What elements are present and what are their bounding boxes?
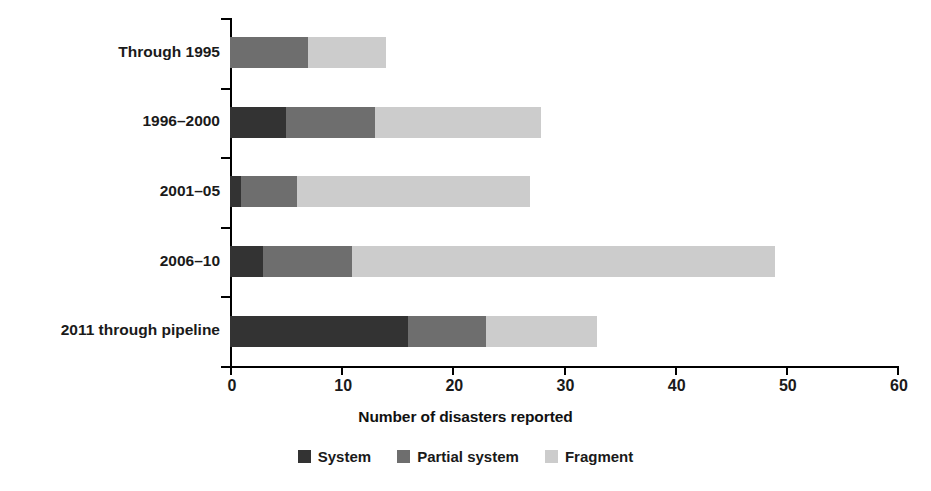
y-axis-tick — [221, 366, 230, 368]
chart-category-row: Through 1995 — [230, 18, 897, 88]
chart-category-row: 2011 through pipeline — [230, 296, 897, 366]
legend-label: Partial system — [417, 448, 519, 465]
x-axis-tick — [786, 366, 788, 375]
bar-segment-partial-system — [241, 176, 297, 207]
chart-category-row: 1996–2000 — [230, 88, 897, 158]
stacked-bar — [230, 246, 775, 277]
chart-legend: SystemPartial systemFragment — [0, 448, 931, 465]
x-axis-tick-label: 0 — [202, 377, 262, 395]
bar-segment-partial-system — [408, 316, 486, 347]
legend-swatch-icon — [397, 450, 410, 463]
x-axis-tick — [675, 366, 677, 375]
x-axis-title: Number of disasters reported — [0, 408, 931, 426]
category-label: Through 1995 — [0, 43, 220, 61]
legend-swatch-icon — [545, 450, 558, 463]
x-axis-tick-label: 40 — [647, 377, 707, 395]
x-axis-tick-label: 60 — [869, 377, 929, 395]
legend-item: Partial system — [397, 448, 519, 465]
x-axis-tick — [452, 366, 454, 375]
stacked-bar — [230, 316, 597, 347]
bar-chart: Through 19951996–20002001–052006–102011 … — [0, 0, 931, 491]
category-label: 2011 through pipeline — [0, 321, 220, 339]
legend-item: Fragment — [545, 448, 633, 465]
legend-label: Fragment — [565, 448, 633, 465]
bar-segment-system — [230, 107, 286, 138]
legend-item: System — [298, 448, 371, 465]
bar-segment-system — [230, 316, 408, 347]
y-axis-tick — [221, 296, 230, 298]
legend-swatch-icon — [298, 450, 311, 463]
legend-label: System — [318, 448, 371, 465]
bar-segment-system — [230, 246, 263, 277]
y-axis-tick — [221, 227, 230, 229]
plot-area: Through 19951996–20002001–052006–102011 … — [230, 18, 897, 366]
stacked-bar — [230, 176, 530, 207]
category-label: 2006–10 — [0, 252, 220, 270]
x-axis-tick-label: 10 — [313, 377, 373, 395]
x-axis-tick — [564, 366, 566, 375]
x-axis-tick-label: 50 — [758, 377, 818, 395]
chart-category-row: 2001–05 — [230, 157, 897, 227]
x-axis-tick — [897, 366, 899, 375]
bar-segment-fragment — [297, 176, 530, 207]
chart-category-row: 2006–10 — [230, 227, 897, 297]
bar-segment-system — [230, 176, 241, 207]
stacked-bar — [230, 37, 386, 68]
category-label: 2001–05 — [0, 182, 220, 200]
y-axis-tick — [221, 18, 230, 20]
stacked-bar — [230, 107, 541, 138]
x-axis-tick-label: 30 — [536, 377, 596, 395]
x-axis-tick — [230, 366, 232, 375]
bar-segment-partial-system — [230, 37, 308, 68]
bar-segment-fragment — [308, 37, 386, 68]
bar-segment-partial-system — [286, 107, 375, 138]
x-axis-tick — [341, 366, 343, 375]
bar-segment-fragment — [352, 246, 774, 277]
y-axis-tick — [221, 157, 230, 159]
y-axis-tick — [221, 88, 230, 90]
bar-segment-partial-system — [263, 246, 352, 277]
bar-segment-fragment — [486, 316, 597, 347]
x-axis-tick-label: 20 — [424, 377, 484, 395]
bar-segment-fragment — [375, 107, 542, 138]
category-label: 1996–2000 — [0, 112, 220, 130]
